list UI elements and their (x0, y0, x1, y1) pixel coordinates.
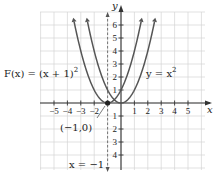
y-tick-label: 2 (113, 124, 118, 134)
x-axis-label: x (207, 104, 213, 115)
x-tick-label: −4 (63, 106, 73, 116)
y-tick-label: 1 (113, 111, 118, 121)
axes (40, 5, 212, 170)
graph: −5−4−3−2123456543211234 x y F(x) = (x + … (0, 0, 218, 177)
curve-arrow-icon (152, 18, 157, 22)
y-tick-label: 3 (113, 59, 118, 69)
y-axis-arrow-icon (119, 5, 124, 12)
g-function-label: y = x2 (145, 66, 177, 79)
x-tick-label: 2 (146, 106, 151, 116)
curve-arrow-icon (72, 18, 77, 22)
dashed-arrow-up-icon (106, 12, 110, 17)
x-tick-label: 5 (186, 106, 191, 116)
y-tick-label: 4 (113, 150, 118, 160)
y-tick-label: 3 (113, 137, 118, 147)
x-tick-label: 3 (159, 106, 164, 116)
y-tick-label: 1 (113, 85, 118, 95)
x-tick-label: 1 (132, 106, 137, 116)
x-tick-label: −3 (76, 106, 86, 116)
vertex-label: (−1,0) (60, 122, 92, 133)
x-tick-label: −5 (49, 106, 59, 116)
x-tick-label: −2 (89, 106, 99, 116)
grid (40, 12, 205, 170)
y-axis-label: y (111, 0, 118, 11)
y-tick-label: 5 (113, 33, 118, 43)
y-tick-label: 4 (113, 46, 118, 56)
asymptote-label: x = −1 (69, 159, 104, 170)
f-function-label: F(x) = (x + 1)2 (4, 66, 78, 79)
vertex-point (105, 100, 110, 105)
y-tick-label: 6 (113, 20, 118, 30)
curve-arrow-icon (85, 18, 90, 22)
curve-arrow-icon (139, 18, 144, 22)
y-tick-label: 2 (113, 72, 118, 82)
x-tick-label: 4 (172, 106, 177, 116)
dashed-arrow-down-icon (106, 167, 110, 172)
